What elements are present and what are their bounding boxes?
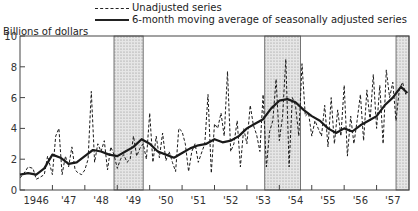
x-tick-label: '47: [61, 195, 76, 206]
y-tick-label: 6: [11, 93, 17, 104]
x-tick-label: '54: [288, 195, 303, 206]
y-tick-label: 0: [11, 185, 17, 196]
x-tick-label: '53: [255, 195, 270, 206]
y-tick-label: 2: [11, 154, 17, 165]
x-tick-label: '57: [385, 195, 400, 206]
line-chart: 02468101946'47'48'49'50'51'52'53'54'55'5…: [0, 0, 418, 211]
x-tick-label: '51: [191, 195, 206, 206]
chart-series: [20, 59, 407, 179]
recession-band: [114, 36, 143, 190]
x-tick-label: 1946: [23, 195, 48, 206]
x-tick-label: '55: [320, 195, 335, 206]
x-tick-label: '50: [158, 195, 173, 206]
y-tick-label: 8: [11, 62, 17, 73]
y-tick-label: 4: [11, 123, 17, 134]
x-tick-label: '52: [223, 195, 238, 206]
recession-shading: [114, 36, 409, 190]
x-tick-label: '48: [93, 195, 108, 206]
recession-band: [396, 36, 409, 190]
x-tick-label: '49: [126, 195, 141, 206]
y-tick-label: 10: [4, 31, 17, 42]
recession-band: [265, 36, 301, 190]
x-tick-label: '56: [353, 195, 368, 206]
